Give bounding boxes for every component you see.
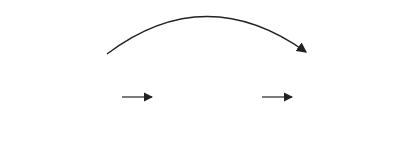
- composition-diagram: [0, 0, 411, 148]
- composition-arrow: [107, 16, 306, 54]
